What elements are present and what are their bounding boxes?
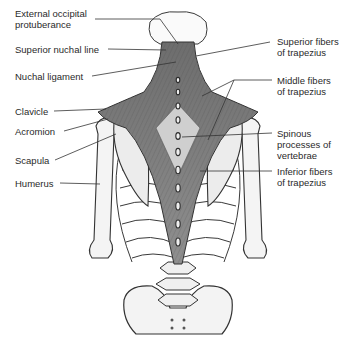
label-spinous-processes: Spinous processes of vertebrae (277, 128, 331, 161)
label-clavicle: Clavicle (15, 106, 48, 117)
anatomy-diagram: External occipital protuberance Superior… (0, 0, 353, 341)
label-scapula: Scapula (15, 155, 49, 166)
label-middle-fibers: Middle fibers of trapezius (277, 75, 331, 97)
label-superior-fibers: Superior fibers of trapezius (277, 36, 339, 58)
lumbar-spine (156, 262, 200, 306)
label-superior-nuchal-line: Superior nuchal line (15, 44, 99, 55)
label-nuchal-ligament: Nuchal ligament (15, 71, 83, 82)
pelvis (124, 286, 233, 334)
label-humerus: Humerus (15, 178, 54, 189)
label-external-occipital-protuberance: External occipital protuberance (15, 8, 87, 30)
head-base (149, 12, 207, 44)
label-acromion: Acromion (15, 126, 55, 137)
label-inferior-fibers: Inferior fibers of trapezius (277, 166, 332, 188)
